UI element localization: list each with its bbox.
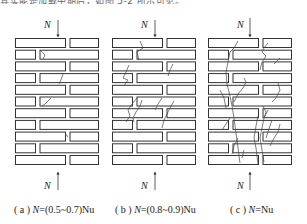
panel-b-caption: ( b ) N=(0.8~0.9)Nu bbox=[115, 204, 196, 215]
caption-range: =(0.5~0.7)Nu bbox=[39, 204, 94, 215]
panel-b-top-load-label: N bbox=[141, 19, 148, 30]
panel-c-bottom-load-label: N bbox=[237, 180, 244, 191]
caption-prefix: ( c ) bbox=[230, 204, 249, 215]
panel-c-caption: ( c ) N=Nu bbox=[230, 204, 273, 215]
panel-a-top-load-label: N bbox=[44, 19, 51, 30]
panel-a-wall bbox=[16, 39, 99, 165]
caption-prefix: ( a ) bbox=[14, 204, 33, 215]
caption-range: =Nu bbox=[255, 204, 273, 215]
caption-range: =(0.8~0.9)Nu bbox=[141, 204, 196, 215]
panel-a-bottom-load-label: N bbox=[44, 180, 51, 191]
panel-a-caption: ( a ) N=(0.5~0.7)Nu bbox=[14, 204, 94, 215]
panel-b-bottom-load-label: N bbox=[141, 180, 148, 191]
caption-variable: N bbox=[134, 204, 141, 215]
panel-c-top-load-label: N bbox=[237, 19, 244, 30]
panel-c-wall bbox=[209, 39, 292, 165]
panel-b-wall bbox=[113, 39, 196, 165]
caption-prefix: ( b ) bbox=[115, 204, 134, 215]
